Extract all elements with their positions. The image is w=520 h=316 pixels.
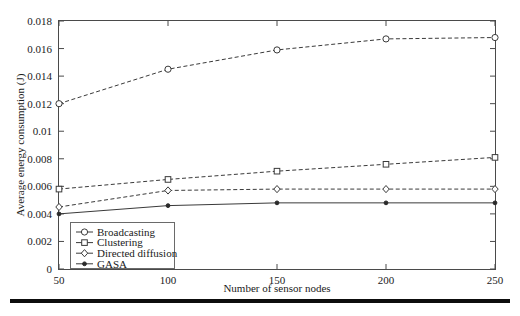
data-point-0-2 xyxy=(274,47,280,53)
data-point-1-4 xyxy=(492,155,498,161)
data-point-0-0 xyxy=(56,101,62,107)
data-point-1-1 xyxy=(165,177,171,183)
series-directed-diffusion xyxy=(56,185,498,210)
x-axis-title: Number of sensor nodes xyxy=(223,282,330,294)
y-tick-label-9: 0.018 xyxy=(27,15,52,27)
series-broadcasting xyxy=(56,34,498,106)
y-tick-label-4: 0.008 xyxy=(27,153,52,165)
y-tick-label-2: 0.004 xyxy=(27,208,52,220)
y-tick-label-7: 0.014 xyxy=(27,70,52,82)
series-gasa xyxy=(57,201,497,216)
bottom-rule-divider xyxy=(10,299,510,303)
y-tick-label-1: 0.002 xyxy=(27,235,52,247)
data-point-3-1 xyxy=(166,204,170,208)
legend-swatch-marker-0 xyxy=(81,229,87,235)
data-point-1-0 xyxy=(56,186,62,192)
legend-swatch-marker-3 xyxy=(83,262,87,266)
y-tick-label-0: 0 xyxy=(47,263,53,275)
x-tick-label-0: 50 xyxy=(54,274,66,286)
y-tick-label-8: 0.016 xyxy=(27,43,52,55)
data-point-3-2 xyxy=(275,201,279,205)
y-tick-label-5: 0.01 xyxy=(33,125,52,137)
data-point-0-3 xyxy=(383,36,389,42)
data-point-2-2 xyxy=(274,185,280,192)
data-point-3-3 xyxy=(384,201,388,205)
data-point-3-0 xyxy=(57,212,61,216)
y-tick-label-3: 0.006 xyxy=(27,180,52,192)
line-chart: 00.0020.0040.0060.0080.010.0120.0140.016… xyxy=(0,0,520,316)
data-point-3-4 xyxy=(493,201,497,205)
figure-container: 00.0020.0040.0060.0080.010.0120.0140.016… xyxy=(0,0,520,316)
y-axis-tick-labels: 00.0020.0040.0060.0080.010.0120.0140.016… xyxy=(27,15,52,275)
data-point-0-1 xyxy=(165,66,171,72)
data-point-0-4 xyxy=(492,34,498,40)
x-tick-label-1: 100 xyxy=(160,274,177,286)
x-tick-label-4: 250 xyxy=(487,274,504,286)
y-axis-title: Average energy consumption (J) xyxy=(14,73,27,216)
y-tick-label-6: 0.012 xyxy=(27,98,52,110)
data-point-2-3 xyxy=(383,185,389,192)
legend-swatch-marker-1 xyxy=(82,240,88,246)
data-point-2-1 xyxy=(165,187,171,194)
data-point-1-2 xyxy=(274,168,280,174)
data-series-layer xyxy=(56,34,498,215)
data-point-1-3 xyxy=(383,161,389,167)
legend: BroadcastingClusteringDirected diffusion… xyxy=(71,223,178,270)
legend-label-3: GASA xyxy=(97,258,127,270)
x-tick-label-3: 200 xyxy=(378,274,395,286)
data-point-2-0 xyxy=(56,203,62,210)
